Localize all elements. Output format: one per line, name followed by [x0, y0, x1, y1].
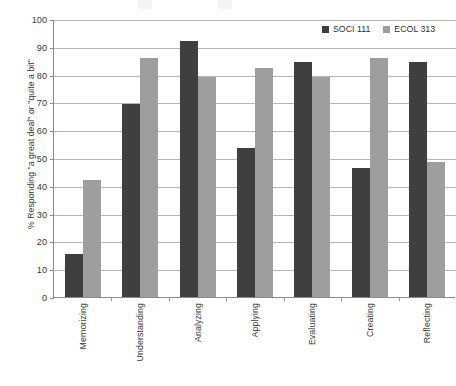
bar-group — [408, 19, 446, 297]
y-axis-tick — [50, 103, 54, 104]
bar-group — [121, 19, 159, 297]
y-axis-tick-label: 0 — [42, 293, 47, 303]
y-axis-tick-label: 50 — [37, 154, 47, 164]
x-axis-tick — [284, 297, 285, 301]
x-axis-tick — [341, 297, 342, 301]
y-axis-tick-label: 90 — [37, 43, 47, 53]
y-axis-tick-label: 30 — [37, 210, 47, 220]
y-axis-tick-label: 60 — [37, 126, 47, 136]
legend-swatch-icon — [322, 26, 329, 33]
x-axis-category-label: Reflecting — [422, 303, 432, 343]
y-axis-tick — [50, 242, 54, 243]
y-axis-tick — [50, 131, 54, 132]
bar — [65, 254, 83, 297]
x-axis-category-label: Understanding — [135, 303, 145, 362]
y-axis-tick-label: 100 — [32, 15, 47, 25]
x-axis-category-label: Analyzing — [193, 303, 203, 342]
legend-item: ECOL 313 — [383, 24, 435, 34]
bar — [255, 68, 273, 297]
scan-artifact-left — [138, 0, 152, 9]
bar-group — [293, 19, 331, 297]
plot-area: 0102030405060708090100 — [53, 20, 455, 298]
y-axis-tick-label: 40 — [37, 182, 47, 192]
x-axis-tick — [399, 297, 400, 301]
x-axis-category-label: Memorizing — [78, 303, 88, 349]
bar — [83, 180, 101, 297]
y-axis-tick-label: 20 — [37, 237, 47, 247]
legend-label: SOCI 111 — [333, 24, 370, 34]
bar-chart: % Responding "a great deal" or "quite a … — [0, 0, 456, 386]
bar — [409, 62, 427, 297]
bar — [294, 62, 312, 297]
bar — [198, 77, 216, 297]
y-axis-tick — [50, 76, 54, 77]
y-axis-tick — [50, 187, 54, 188]
x-axis-tick — [111, 297, 112, 301]
legend-label: ECOL 313 — [394, 24, 435, 34]
y-axis-tick — [50, 48, 54, 49]
bar — [312, 77, 330, 297]
bar — [427, 162, 445, 297]
legend-item: SOCI 111 — [322, 24, 370, 34]
legend-swatch-icon — [383, 26, 390, 33]
y-axis-tick — [50, 270, 54, 271]
x-axis-tick — [226, 297, 227, 301]
bar — [180, 41, 198, 297]
x-axis-tick — [169, 297, 170, 301]
bar — [237, 148, 255, 297]
bar — [140, 58, 158, 297]
y-axis-tick-label: 70 — [37, 98, 47, 108]
bar — [370, 58, 388, 297]
y-axis-tick — [50, 298, 54, 299]
x-axis-category-label: Creating — [365, 303, 375, 337]
y-axis-tick — [50, 215, 54, 216]
y-axis-tick — [50, 20, 54, 21]
bar — [122, 104, 140, 297]
scan-artifact-right — [218, 0, 232, 9]
x-axis-category-label: Evaluating — [307, 303, 317, 345]
bar-group — [179, 19, 217, 297]
bar-group — [351, 19, 389, 297]
bar — [352, 168, 370, 297]
y-axis-tick-label: 80 — [37, 71, 47, 81]
y-axis-tick-label: 10 — [37, 265, 47, 275]
x-axis-category-label: Applying — [250, 303, 260, 338]
bar-group — [236, 19, 274, 297]
y-axis-title: % Responding "a great deal" or "quite a … — [26, 4, 36, 284]
y-axis-tick — [50, 159, 54, 160]
bar-group — [64, 19, 102, 297]
chart-legend: SOCI 111ECOL 313 — [322, 24, 435, 34]
